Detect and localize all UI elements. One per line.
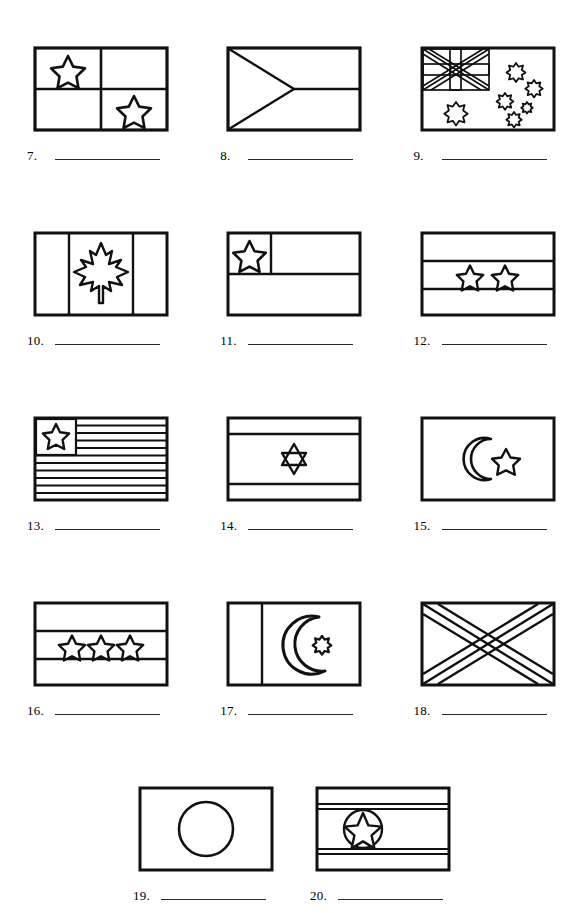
item-number: 12.	[414, 333, 442, 349]
answer-line-12: 12.	[387, 333, 547, 349]
answer-line-14: 14.	[193, 518, 353, 534]
flag-grid: 7. 8.	[0, 30, 580, 913]
flag-image-7	[0, 30, 169, 148]
item-number: 13.	[27, 518, 55, 534]
flag-image-10	[0, 215, 169, 333]
flag-row: 10. 11.	[0, 215, 580, 400]
answer-line-15: 15.	[387, 518, 547, 534]
answer-line-8: 8.	[193, 148, 353, 164]
flag-item-12: 12.	[387, 215, 580, 400]
flag-item-8: 8.	[193, 30, 386, 215]
answer-blank[interactable]	[55, 518, 160, 530]
answer-line-13: 13.	[0, 518, 160, 534]
flag-item-7: 7.	[0, 30, 193, 215]
item-number: 16.	[27, 703, 55, 719]
answer-blank[interactable]	[442, 518, 547, 530]
answer-blank[interactable]	[442, 333, 547, 345]
flag-item-14: 14.	[193, 400, 386, 585]
answer-blank[interactable]	[338, 888, 443, 900]
flag-image-16	[0, 585, 169, 703]
flag-item-20: 20.	[290, 770, 467, 913]
flag-image-15	[387, 400, 556, 518]
answer-blank[interactable]	[442, 148, 547, 160]
flag-item-11: 11.	[193, 215, 386, 400]
flag-item-13: 13.	[0, 400, 193, 585]
answer-blank[interactable]	[248, 518, 353, 530]
flag-item-16: 16.	[0, 585, 193, 770]
item-number: 20.	[310, 888, 338, 904]
flag-image-11	[193, 215, 362, 333]
flag-image-8	[193, 30, 362, 148]
answer-blank[interactable]	[55, 148, 160, 160]
answer-blank[interactable]	[161, 888, 266, 900]
answer-line-9: 9.	[387, 148, 547, 164]
item-number: 18.	[414, 703, 442, 719]
flag-image-20	[290, 770, 451, 888]
flag-item-19: 19.	[113, 770, 290, 913]
flag-row: 13. 14.	[0, 400, 580, 585]
flag-row: 16. 17.	[0, 585, 580, 770]
flag-image-17	[193, 585, 362, 703]
item-number: 17.	[220, 703, 248, 719]
answer-line-7: 7.	[0, 148, 160, 164]
flag-image-12	[387, 215, 556, 333]
item-number: 8.	[220, 148, 248, 164]
flag-image-18	[387, 585, 556, 703]
flag-item-17: 17.	[193, 585, 386, 770]
item-number: 14.	[220, 518, 248, 534]
flag-row: 19.	[0, 770, 580, 913]
flag-image-14	[193, 400, 362, 518]
flag-item-18: 18.	[387, 585, 580, 770]
answer-blank[interactable]	[55, 333, 160, 345]
answer-line-20: 20.	[290, 888, 443, 904]
answer-line-11: 11.	[193, 333, 353, 349]
answer-blank[interactable]	[248, 333, 353, 345]
flag-image-19	[113, 770, 274, 888]
flag-image-13	[0, 400, 169, 518]
item-number: 15.	[414, 518, 442, 534]
flag-item-10: 10.	[0, 215, 193, 400]
item-number: 10.	[27, 333, 55, 349]
flag-item-9: 9.	[387, 30, 580, 215]
answer-blank[interactable]	[55, 703, 160, 715]
answer-blank[interactable]	[248, 703, 353, 715]
flag-image-9	[387, 30, 556, 148]
flag-row: 7. 8.	[0, 30, 580, 215]
worksheet-page: 7. 8.	[0, 0, 580, 913]
item-number: 11.	[220, 333, 248, 349]
answer-line-10: 10.	[0, 333, 160, 349]
answer-blank[interactable]	[442, 703, 547, 715]
item-number: 9.	[414, 148, 442, 164]
answer-line-19: 19.	[113, 888, 266, 904]
item-number: 7.	[27, 148, 55, 164]
answer-line-18: 18.	[387, 703, 547, 719]
answer-line-17: 17.	[193, 703, 353, 719]
answer-line-16: 16.	[0, 703, 160, 719]
flag-item-15: 15.	[387, 400, 580, 585]
item-number: 19.	[133, 888, 161, 904]
answer-blank[interactable]	[248, 148, 353, 160]
